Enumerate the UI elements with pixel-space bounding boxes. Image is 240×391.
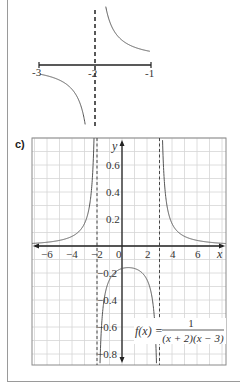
function-lhs: f(x) = bbox=[135, 324, 163, 338]
y-axis-down-arrow bbox=[120, 357, 125, 363]
y-tick-label: −0.4 bbox=[97, 294, 117, 306]
x-tick-label: −4 bbox=[66, 248, 78, 260]
y-axis-label: y bbox=[111, 139, 118, 153]
sketch-tick-label: -1 bbox=[145, 67, 154, 79]
sketch-tick-label: -3 bbox=[32, 66, 42, 78]
y-tick-label: 0.2 bbox=[106, 213, 120, 225]
sketch-tick-label: -2 bbox=[88, 67, 97, 79]
function-graph: −6−4−202460.60.40.2−0.2−0.4−0.6−0.8 y x … bbox=[32, 138, 226, 365]
x-axis-left-arrow bbox=[33, 244, 39, 249]
y-tick-label: −0.8 bbox=[97, 348, 117, 360]
function-denominator: (x + 2)(x − 3) bbox=[162, 332, 224, 345]
y-tick-label: 0.4 bbox=[106, 186, 120, 198]
y-tick-label: 0.6 bbox=[106, 159, 120, 171]
x-tick-label: −6 bbox=[41, 248, 53, 260]
y-tick-label: −0.6 bbox=[97, 321, 117, 333]
asymptote-sketch: -3 -2 -1 bbox=[32, 7, 154, 126]
part-label: c) bbox=[15, 138, 25, 150]
x-tick-label: −2 bbox=[91, 248, 103, 260]
x-tick-label: 6 bbox=[195, 248, 201, 260]
figure-canvas: -3 -2 -1 −6−4−202460.60.40.2−0.2−0.4−0.6… bbox=[0, 0, 240, 391]
function-numerator: 1 bbox=[188, 317, 194, 329]
y-tick-label: −0.2 bbox=[97, 267, 117, 279]
x-axis-label: x bbox=[216, 247, 223, 261]
x-tick-label: 4 bbox=[170, 248, 176, 260]
x-tick-label: 2 bbox=[145, 248, 151, 260]
y-axis-up-arrow bbox=[120, 140, 125, 146]
sketch-left-branch bbox=[40, 74, 85, 124]
x-tick-label: 0 bbox=[116, 248, 122, 260]
sketch-right-branch bbox=[106, 7, 150, 52]
